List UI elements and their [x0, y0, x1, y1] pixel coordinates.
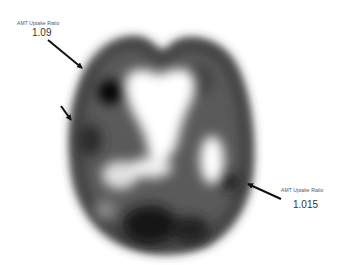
annotation-label-left: AMT Uptake Ratio: [17, 20, 59, 26]
annotation-label-right: AMT Uptake Ratio: [281, 187, 323, 193]
arrow-mid-left-icon: [61, 106, 71, 120]
annotation-value-left: 1.09: [32, 27, 51, 38]
hot-spot-left-frontal: [98, 80, 122, 104]
brain-scan-image: [0, 0, 340, 265]
arrow-right-icon: [248, 184, 281, 199]
arrow-upper-left-icon: [48, 40, 82, 68]
annotation-value-right: 1.015: [293, 199, 318, 210]
